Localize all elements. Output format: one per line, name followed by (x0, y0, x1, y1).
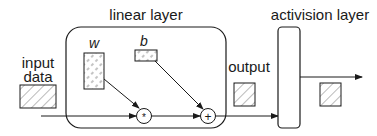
input-data-box (20, 85, 56, 108)
output-label: output (228, 58, 271, 75)
activation-layer-label: activision layer (271, 6, 369, 23)
bias-label: b (140, 33, 148, 49)
weight-matrix (84, 53, 104, 89)
multiply-symbol: * (142, 112, 146, 123)
input-label-line2: data (23, 68, 53, 85)
diagram-canvas: linear layer w b input data * + output a… (0, 0, 377, 136)
weight-label: w (89, 35, 100, 51)
output-box (234, 83, 255, 106)
bias-arrow (155, 61, 203, 109)
add-symbol: + (204, 110, 211, 124)
bias-vector (135, 50, 157, 61)
linear-layer-label: linear layer (109, 6, 182, 23)
activation-layer-box (278, 27, 300, 128)
weight-arrow (104, 79, 139, 108)
activation-output-box (320, 83, 341, 106)
